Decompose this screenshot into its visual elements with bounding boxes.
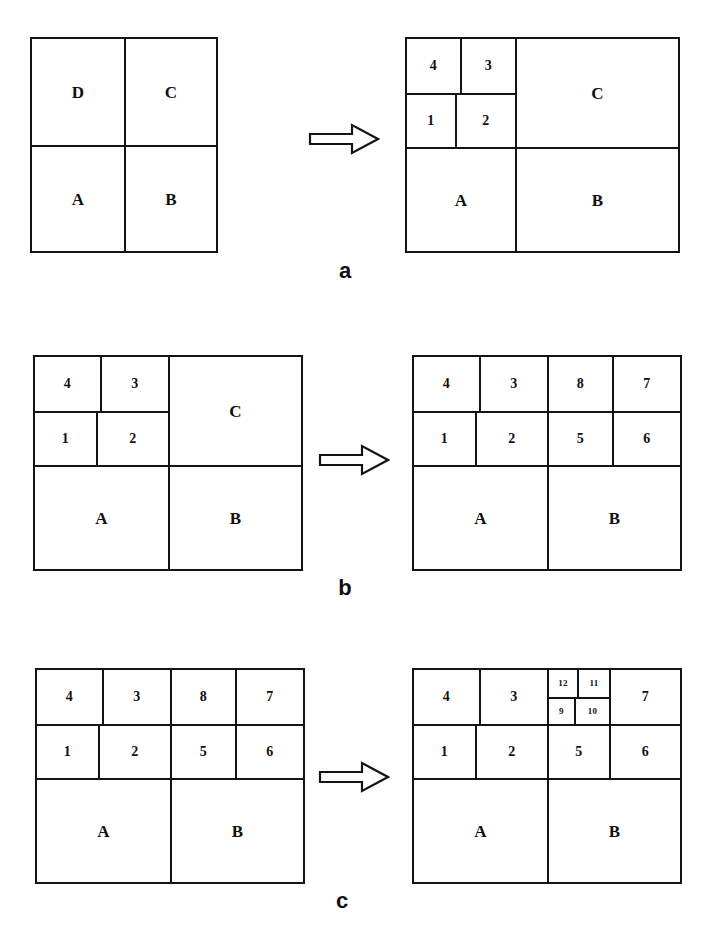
cell-label: 7 — [642, 690, 649, 704]
cell-a: A — [414, 778, 547, 882]
cell-b: B — [168, 465, 301, 569]
cell-1: 1 — [35, 411, 96, 465]
figure-row-c: 4 3 8 7 1 2 5 6 A — [0, 645, 709, 944]
cell-2: 2 — [96, 411, 168, 465]
figure-row-b: 4 3 1 2 C A B — [0, 310, 709, 645]
cell-label: 3 — [133, 690, 140, 704]
cell-label: B — [232, 823, 244, 840]
cell-label: C — [591, 85, 604, 102]
cell-label: 7 — [643, 377, 650, 391]
cell-label: 4 — [443, 377, 450, 391]
cell-2: 2 — [455, 93, 515, 147]
right-arrow-icon — [308, 122, 380, 156]
cell-label: B — [592, 192, 604, 209]
cell-label: 12 — [558, 679, 568, 688]
cell-label: 2 — [129, 432, 136, 446]
cell-4: 4 — [414, 357, 479, 411]
cell-3: 3 — [460, 39, 515, 93]
cell-12: 12 — [547, 670, 577, 697]
cell-c: C — [124, 39, 216, 145]
cell-label: D — [72, 84, 85, 101]
cell-label: 7 — [266, 690, 273, 704]
cell-7: 7 — [235, 670, 303, 724]
cell-label: 1 — [441, 432, 448, 446]
cell-6: 6 — [609, 724, 680, 778]
row-caption-a: a — [325, 258, 365, 284]
cell-6: 6 — [612, 411, 680, 465]
cell-10: 10 — [574, 697, 609, 724]
cell-4: 4 — [37, 670, 102, 724]
diagram-a-right: 4 3 1 2 C A B — [405, 37, 680, 253]
cell-a: A — [407, 147, 515, 251]
cell-3: 3 — [479, 670, 547, 724]
cell-label: 6 — [266, 745, 273, 759]
cell-11: 11 — [577, 670, 609, 697]
cell-b: B — [170, 778, 303, 882]
cell-8: 8 — [547, 357, 612, 411]
cell-2: 2 — [475, 411, 547, 465]
cell-1: 1 — [407, 93, 455, 147]
cell-b: B — [547, 465, 680, 569]
row-caption-b: b — [325, 575, 365, 601]
cell-label: 6 — [643, 432, 650, 446]
cell-b: B — [124, 145, 216, 251]
cell-4: 4 — [414, 670, 479, 724]
figure-canvas: D C A B 4 3 — [0, 0, 709, 944]
cell-c: C — [515, 39, 678, 147]
cell-a: A — [32, 145, 124, 251]
cell-label: 4 — [64, 377, 71, 391]
cell-1: 1 — [37, 724, 98, 778]
cell-5: 5 — [547, 724, 609, 778]
cell-d: D — [32, 39, 124, 145]
cell-label: 4 — [430, 59, 437, 73]
cell-label: B — [165, 191, 177, 208]
figure-row-a: D C A B 4 3 — [0, 0, 709, 310]
cell-label: 3 — [510, 690, 517, 704]
cell-label: 2 — [482, 114, 489, 128]
cell-label: 9 — [559, 707, 564, 716]
cell-label: 5 — [575, 745, 582, 759]
cell-label: 6 — [642, 745, 649, 759]
cell-8: 8 — [170, 670, 235, 724]
cell-3: 3 — [102, 670, 170, 724]
diagram-c-left: 4 3 8 7 1 2 5 6 A — [35, 668, 305, 884]
cell-6: 6 — [235, 724, 303, 778]
cell-7: 7 — [612, 357, 680, 411]
cell-label: A — [72, 191, 85, 208]
cell-3: 3 — [479, 357, 547, 411]
cell-label: 4 — [443, 690, 450, 704]
cell-c: C — [168, 357, 301, 465]
diagram-b-left: 4 3 1 2 C A B — [33, 355, 303, 571]
cell-label: C — [229, 403, 242, 420]
cell-label: A — [95, 510, 108, 527]
right-arrow-icon — [318, 443, 390, 477]
cell-label: 2 — [508, 432, 515, 446]
cell-label: A — [474, 823, 487, 840]
cell-4: 4 — [407, 39, 460, 93]
cell-1: 1 — [414, 724, 475, 778]
cell-b: B — [515, 147, 678, 251]
cell-label: 8 — [577, 377, 584, 391]
cell-label: A — [455, 192, 468, 209]
cell-label: 11 — [589, 679, 598, 688]
cell-1: 1 — [414, 411, 475, 465]
cell-2: 2 — [475, 724, 547, 778]
cell-label: 2 — [508, 745, 515, 759]
cell-label: B — [609, 823, 621, 840]
cell-5: 5 — [170, 724, 235, 778]
cell-a: A — [35, 465, 168, 569]
diagram-c-right: 4 3 12 11 9 10 7 1 — [412, 668, 682, 884]
cell-label: C — [165, 84, 178, 101]
cell-label: 1 — [427, 114, 434, 128]
diagram-b-right: 4 3 8 7 1 2 5 6 A — [412, 355, 682, 571]
cell-label: 8 — [200, 690, 207, 704]
row-caption-c: c — [322, 888, 362, 914]
right-arrow-icon — [318, 760, 390, 794]
cell-label: B — [609, 510, 621, 527]
cell-label: 10 — [588, 707, 598, 716]
cell-label: A — [474, 510, 487, 527]
cell-label: 5 — [577, 432, 584, 446]
cell-4: 4 — [35, 357, 100, 411]
cell-a: A — [37, 778, 170, 882]
cell-3: 3 — [100, 357, 168, 411]
